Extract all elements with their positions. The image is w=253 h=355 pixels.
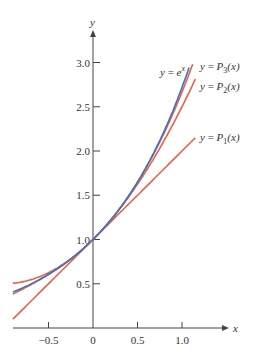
- x-tick-label: 1.0: [175, 334, 189, 346]
- curve-p3: [13, 64, 193, 294]
- curve-exp: [13, 67, 189, 292]
- x-tick-label: −0.5: [39, 334, 59, 346]
- y-tick-label: 2.0: [76, 145, 90, 157]
- curves: [13, 64, 195, 319]
- curve-p2: [13, 79, 195, 283]
- x-axis-arrow-icon: [222, 325, 229, 331]
- taylor-polynomial-chart: x y −0.500.51.00.51.01.52.02.53.0 y = ex…: [0, 0, 253, 355]
- curve-label: y = P2(x): [199, 80, 240, 95]
- curve-label: y = P3(x): [199, 60, 240, 75]
- axes: [13, 35, 224, 328]
- y-axis-arrow-icon: [90, 30, 96, 37]
- x-tick-label: 0.5: [131, 334, 145, 346]
- x-axis-label: x: [232, 322, 238, 334]
- y-tick-label: 2.5: [76, 101, 90, 113]
- curve-label: y = ex: [159, 64, 186, 78]
- curve-label: y = P1(x): [199, 131, 240, 146]
- y-axis-label: y: [89, 16, 95, 28]
- y-tick-label: 0.5: [76, 278, 90, 290]
- x-tick-label: 0: [90, 334, 96, 346]
- ticks: −0.500.51.00.51.01.52.02.53.0: [39, 57, 190, 347]
- y-tick-label: 1.5: [76, 189, 90, 201]
- curve-labels: y = exy = P3(x)y = P2(x)y = P1(x): [159, 60, 240, 146]
- y-tick-label: 3.0: [76, 57, 90, 69]
